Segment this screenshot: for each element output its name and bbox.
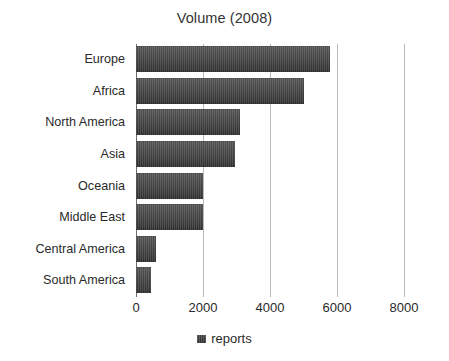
bar-band bbox=[136, 107, 404, 139]
x-axis-tick-labels: 02000400060008000 bbox=[0, 300, 449, 322]
bar-band bbox=[136, 44, 404, 76]
bar-band bbox=[136, 202, 404, 234]
x-tick-label-8000: 8000 bbox=[390, 300, 419, 315]
bar-africa bbox=[136, 78, 304, 104]
bars-group bbox=[136, 44, 404, 297]
chart-title: Volume (2008) bbox=[0, 10, 449, 26]
legend-swatch-reports bbox=[197, 335, 206, 343]
bar-asia bbox=[136, 141, 235, 167]
category-label-central-america: Central America bbox=[0, 234, 130, 266]
chart-legend: reports bbox=[0, 331, 449, 346]
bar-central-america bbox=[136, 236, 156, 262]
x-tick-label-2000: 2000 bbox=[189, 300, 218, 315]
bar-band bbox=[136, 265, 404, 297]
y-axis-category-labels: EuropeAfricaNorth AmericaAsiaOceaniaMidd… bbox=[0, 44, 130, 297]
plot-area bbox=[136, 44, 404, 297]
category-label-middle-east: Middle East bbox=[0, 202, 130, 234]
bar-middle-east bbox=[136, 204, 203, 230]
x-tick-label-4000: 4000 bbox=[256, 300, 285, 315]
bar-band bbox=[136, 171, 404, 203]
bar-band bbox=[136, 139, 404, 171]
bar-band bbox=[136, 234, 404, 266]
bar-north-america bbox=[136, 109, 240, 135]
bar-europe bbox=[136, 46, 330, 72]
gridline-8000 bbox=[404, 44, 405, 297]
category-label-south-america: South America bbox=[0, 265, 130, 297]
x-tick-label-0: 0 bbox=[132, 300, 139, 315]
category-label-asia: Asia bbox=[0, 139, 130, 171]
bar-south-america bbox=[136, 267, 151, 293]
category-label-africa: Africa bbox=[0, 76, 130, 108]
category-label-north-america: North America bbox=[0, 107, 130, 139]
category-label-oceania: Oceania bbox=[0, 171, 130, 203]
category-label-europe: Europe bbox=[0, 44, 130, 76]
legend-label-reports: reports bbox=[211, 331, 251, 346]
x-tick-label-6000: 6000 bbox=[323, 300, 352, 315]
bar-chart-figure: Volume (2008) EuropeAfricaNorth AmericaA… bbox=[0, 0, 449, 361]
bar-band bbox=[136, 76, 404, 108]
bar-oceania bbox=[136, 173, 203, 199]
